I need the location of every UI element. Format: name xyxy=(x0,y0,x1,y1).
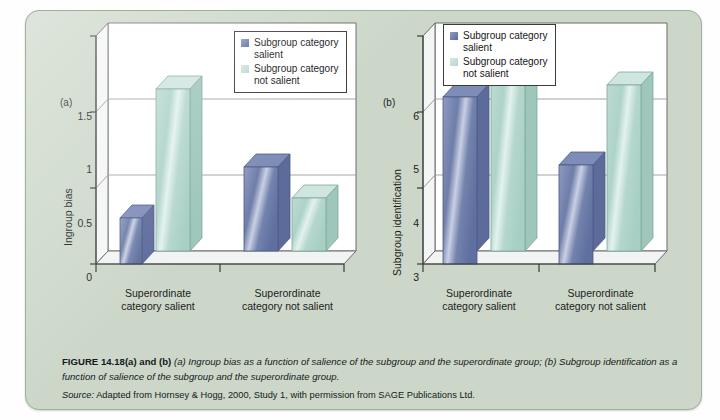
chart-a-legend-item-blue: Subgroup category salient xyxy=(241,37,339,60)
chart-b-ytick-1: 4 xyxy=(395,217,419,229)
chart-b-bar-g2-green xyxy=(607,72,653,251)
chart-b-xlabel-1-line1: Superordinate xyxy=(419,287,539,300)
chart-b-bar-g1-blue xyxy=(443,84,489,264)
chart-b-ytick-0: 3 xyxy=(395,271,419,283)
legend-swatch-blue-icon xyxy=(450,32,458,40)
chart-a-bar-g1-green xyxy=(156,76,202,251)
legend-blue-line2: salient xyxy=(463,42,492,53)
chart-a-legend-item-green: Subgroup category not salient xyxy=(241,63,339,86)
chart-a-bar-g2-green xyxy=(292,185,338,251)
chart-b: (b) Subgroup identification 6 5 4 3 xyxy=(381,11,699,336)
figure-source-label: Source: xyxy=(62,390,94,400)
chart-b-legend-label-blue: Subgroup category salient xyxy=(463,30,548,53)
chart-b-xlabel-2-line1: Superordinate xyxy=(533,287,668,300)
chart-a-panel-letter: (a) xyxy=(60,97,72,108)
figure-caption-number: FIGURE 14.18(a) and (b) xyxy=(62,356,171,367)
chart-a-ytick-3: 1.5 xyxy=(62,110,92,122)
chart-a: (a) Ingroup bias 1.5 1 0.5 0 xyxy=(38,11,383,336)
figure-panel: (a) Ingroup bias 1.5 1 0.5 0 xyxy=(25,10,702,410)
legend-swatch-green-icon xyxy=(450,58,458,66)
figure-caption: FIGURE 14.18(a) and (b) (a) Ingroup bias… xyxy=(62,355,712,384)
chart-b-legend-item-green: Subgroup category not salient xyxy=(450,56,548,79)
chart-b-legend-item-blue: Subgroup category salient xyxy=(450,30,548,53)
chart-b-legend-label-green: Subgroup category not salient xyxy=(463,56,548,79)
chart-a-bar-g1-blue xyxy=(120,205,154,264)
chart-a-xlabel-1-line2: category salient xyxy=(98,300,218,313)
chart-b-ytick-3: 6 xyxy=(395,110,419,122)
chart-b-xlabel-1-line2: category salient xyxy=(419,300,539,313)
legend-green-line2: not salient xyxy=(463,68,509,79)
chart-a-xlabel-2-line1: Superordinate xyxy=(220,287,355,300)
chart-a-xlabel-2: Superordinate category not salient xyxy=(220,287,355,313)
chart-b-xlabel-1: Superordinate category salient xyxy=(419,287,539,313)
chart-b-xlabel-2: Superordinate category not salient xyxy=(533,287,668,313)
chart-a-xlabel-1: Superordinate category salient xyxy=(98,287,218,313)
chart-b-xlabel-2-line2: category not salient xyxy=(533,300,668,313)
legend-swatch-blue-icon xyxy=(241,39,249,47)
charts-container: (a) Ingroup bias 1.5 1 0.5 0 xyxy=(26,11,701,336)
figure-source: Source: Adapted from Hornsey & Hogg, 200… xyxy=(62,389,712,402)
legend-green-line1: Subgroup category xyxy=(254,63,339,74)
legend-swatch-green-icon xyxy=(241,65,249,73)
legend-blue-line1: Subgroup category xyxy=(254,37,339,48)
chart-a-xlabel-1-line1: Superordinate xyxy=(98,287,218,300)
legend-blue-line1: Subgroup category xyxy=(463,30,548,41)
figure-source-text: Adapted from Hornsey & Hogg, 2000, Study… xyxy=(96,390,475,400)
chart-b-panel-letter: (b) xyxy=(383,97,395,108)
chart-a-legend: Subgroup category salient Subgroup categ… xyxy=(234,31,347,93)
chart-a-bar-g2-blue xyxy=(244,154,290,251)
chart-a-legend-label-blue: Subgroup category salient xyxy=(254,37,339,60)
chart-a-xlabel-2-line2: category not salient xyxy=(220,300,355,313)
legend-green-line2: not salient xyxy=(254,75,300,86)
legend-blue-line2: salient xyxy=(254,49,283,60)
chart-a-legend-label-green: Subgroup category not salient xyxy=(254,63,339,86)
legend-green-line1: Subgroup category xyxy=(463,56,548,67)
chart-b-legend: Subgroup category salient Subgroup categ… xyxy=(443,24,556,86)
chart-b-ytick-2: 5 xyxy=(395,163,419,175)
chart-a-ytick-1: 0.5 xyxy=(62,217,92,229)
figure-page: (a) Ingroup bias 1.5 1 0.5 0 xyxy=(0,0,720,420)
chart-a-ytick-2: 1 xyxy=(62,163,92,175)
chart-a-ytick-0: 0 xyxy=(62,271,92,283)
